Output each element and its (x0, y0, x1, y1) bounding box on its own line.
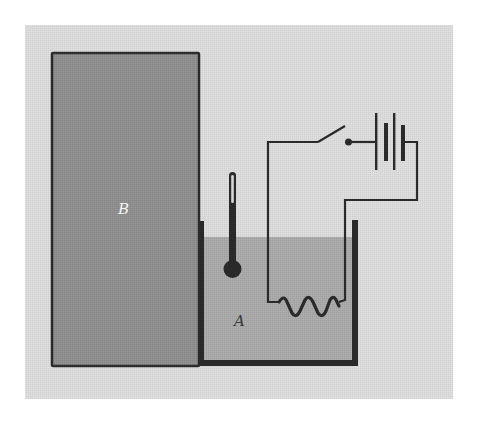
block-b-label: B (117, 200, 129, 218)
calorimetry-diagram: B A (0, 0, 477, 421)
container-a-label: A (232, 312, 245, 330)
